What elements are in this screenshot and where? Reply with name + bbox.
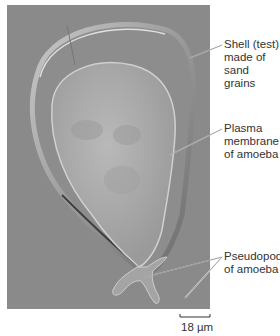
label-pseudopods: Pseudopods of amoeba <box>224 250 280 276</box>
micrograph <box>7 5 210 309</box>
label-line: Pseudopods <box>224 250 280 263</box>
scale-bar-label: 18 µm <box>181 321 213 333</box>
label-line: sand grains <box>224 64 280 90</box>
label-line: Plasma <box>224 122 279 135</box>
label-line: of amoeba <box>224 148 279 161</box>
label-line: of amoeba <box>224 263 280 276</box>
label-shell: Shell (test) made of sand grains <box>224 38 280 90</box>
label-line: membrane <box>224 135 279 148</box>
amoeba-illustration <box>7 5 210 309</box>
label-plasma-membrane: Plasma membrane of amoeba <box>224 122 279 161</box>
label-line: Shell (test) <box>224 38 280 51</box>
label-line: made of <box>224 51 280 64</box>
